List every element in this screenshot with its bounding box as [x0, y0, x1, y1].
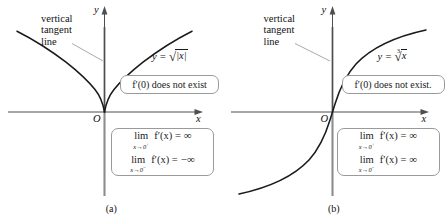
dne-callout-b: f′(0) does not exist.	[342, 75, 445, 94]
limit-subarrow-2-a: →	[133, 166, 140, 173]
limit-row-2-b: lim x→0− f′(x) = ∞	[359, 153, 417, 174]
limit-operator-2-a: lim x→0−	[130, 155, 146, 174]
function-label-a: y = √|x|	[152, 50, 188, 63]
limit-subsign-2-b: −	[372, 165, 375, 170]
panel-b: vertical tangent line y x O y = 3√x f′(0…	[223, 0, 445, 223]
panel-a-graph	[0, 0, 223, 223]
limit-subscript-2-a: x→0−	[130, 165, 146, 174]
panel-a: vertical tangent line y x O y = √|x| f′(…	[0, 0, 223, 223]
vertical-tangent-label-b: vertical tangent line	[264, 13, 326, 47]
caption-a: (a)	[0, 203, 223, 214]
tangent-label-line-3: line	[264, 36, 326, 47]
limit-value-1-a: ∞	[184, 129, 192, 141]
panel-b-graph	[223, 0, 445, 223]
limit-body-1-b: f′(x) =	[380, 130, 407, 141]
limit-row-1-a: lim x→0+ f′(x) = ∞	[133, 129, 191, 150]
function-label-b: y = 3√x	[378, 50, 408, 63]
dne-text-a: f′(0) does not exist	[132, 79, 207, 90]
limit-subsign-1-a: +	[146, 142, 149, 147]
curve-right-branch	[105, 31, 193, 112]
radical-a: √|x|	[169, 50, 188, 63]
limit-lim-2-b: lim	[360, 155, 374, 166]
limit-operator-1-b: lim x→0+	[359, 131, 375, 150]
limit-subarrow-1-a: →	[136, 143, 143, 150]
radicand-b: x	[401, 49, 408, 61]
function-lhs-a: y =	[152, 51, 166, 62]
radical-b: 3√x	[395, 50, 408, 63]
limit-value-2-b: ∞	[409, 153, 417, 165]
limit-subsign-2-a: −	[143, 165, 146, 170]
limit-subscript-1-b: x→0+	[359, 142, 375, 151]
limit-subsign-1-b: +	[372, 142, 375, 147]
limit-subscript-2-b: x→0−	[359, 165, 375, 174]
figure-container: vertical tangent line y x O y = √|x| f′(…	[0, 0, 445, 223]
vertical-tangent-label-a: vertical tangent line	[41, 13, 103, 47]
dne-text-b: f′(0) does not exist.	[354, 79, 431, 90]
limits-callout-a: lim x→0+ f′(x) = ∞ lim x→0− f′(x) = −∞	[111, 128, 214, 176]
tangent-label-line-1: vertical	[264, 13, 326, 24]
y-axis-arrowhead	[329, 6, 335, 15]
limit-value-1-b: ∞	[409, 129, 417, 141]
origin-label-a: O	[93, 113, 101, 124]
limit-body-1-a: f′(x) =	[154, 130, 181, 141]
y-axis-label-a: y	[94, 4, 99, 15]
limit-value-2-a: −∞	[181, 153, 195, 165]
limit-body-2-b: f′(x) =	[380, 154, 407, 165]
x-axis-label-b: x	[422, 113, 427, 124]
limit-row-2-a: lim x→0− f′(x) = −∞	[130, 153, 195, 174]
limit-subscript-1-a: x→0+	[133, 142, 149, 151]
function-lhs-b: y =	[378, 51, 392, 62]
limits-callout-b: lim x→0+ f′(x) = ∞ lim x→0− f′(x) = ∞	[337, 128, 440, 176]
y-axis-label-b: y	[322, 4, 327, 15]
limit-lim-1-b: lim	[360, 131, 374, 142]
limit-operator-2-b: lim x→0−	[359, 155, 375, 174]
tangent-label-line-2: tangent	[41, 24, 103, 35]
limit-lim-1-a: lim	[134, 131, 148, 142]
x-axis-label-a: x	[196, 113, 201, 124]
origin-label-b: O	[321, 113, 329, 124]
limit-row-1-b: lim x→0+ f′(x) = ∞	[359, 129, 417, 150]
tangent-label-line-2: tangent	[264, 24, 326, 35]
radicand-a: |x|	[175, 49, 187, 61]
caption-b: (b)	[223, 203, 445, 214]
limit-body-2-a: f′(x) =	[151, 154, 178, 165]
limit-lim-2-a: lim	[131, 155, 145, 166]
radical-index-b: 3	[397, 48, 400, 54]
dne-callout-a: f′(0) does not exist	[120, 75, 219, 94]
tangent-label-line-3: line	[41, 36, 103, 47]
limit-operator-1-a: lim x→0+	[133, 131, 149, 150]
